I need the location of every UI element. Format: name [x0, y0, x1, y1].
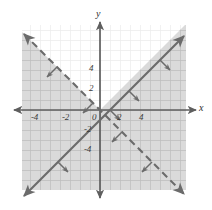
x-axis-label: x: [199, 102, 203, 113]
y-axis-label: y: [96, 8, 100, 19]
y-tick-label--2: -2: [84, 124, 91, 134]
plot-background: [0, 0, 206, 210]
y-tick-label-2: 2: [89, 83, 93, 93]
y-tick-label-4: 4: [89, 63, 93, 73]
x-tick-label-2: 2: [117, 112, 121, 122]
coordinate-graph: -4 -2 0 2 4 4 2 -2 -4 x y: [0, 0, 212, 210]
y-tick-label--4: -4: [84, 144, 91, 154]
x-tick-label--4: -4: [31, 112, 38, 122]
x-tick-label-4: 4: [139, 112, 143, 122]
graph-canvas: [0, 0, 212, 210]
origin-label: 0: [92, 112, 96, 122]
x-tick-label--2: -2: [62, 112, 69, 122]
